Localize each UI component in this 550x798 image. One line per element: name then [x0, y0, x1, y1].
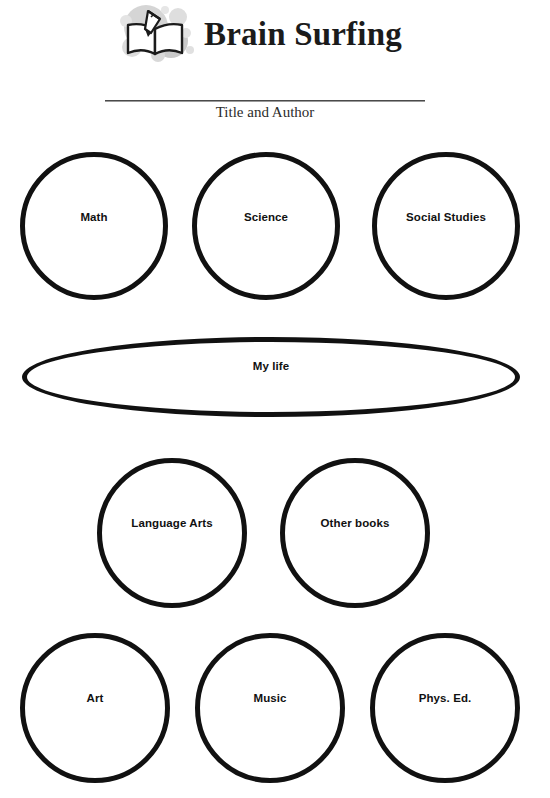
title-and-author-label: Title and Author: [105, 104, 425, 121]
bubble-language-arts[interactable]: Language Arts: [97, 458, 247, 608]
bubble-label: Phys. Ed.: [375, 692, 515, 704]
bubble-my-life[interactable]: My life: [22, 337, 520, 417]
bubble-label: Math: [25, 211, 163, 223]
page-header: Brain Surfing: [0, 0, 550, 70]
worksheet-page: Brain Surfing Title and Author Math Scie…: [0, 0, 550, 798]
bubble-music[interactable]: Music: [195, 633, 345, 783]
bubble-label: My life: [27, 360, 515, 372]
bubble-label: Science: [197, 211, 335, 223]
bubble-other-books[interactable]: Other books: [280, 458, 430, 608]
bubble-math[interactable]: Math: [20, 152, 168, 300]
open-book-with-pencil-icon: [118, 3, 198, 65]
bubble-science[interactable]: Science: [192, 152, 340, 300]
bubble-label: Social Studies: [377, 211, 515, 223]
bubble-label: Music: [200, 692, 340, 704]
bubble-label: Other books: [285, 517, 425, 529]
bubble-label: Art: [25, 692, 165, 704]
bubble-label: Language Arts: [102, 517, 242, 529]
bubble-art[interactable]: Art: [20, 633, 170, 783]
bubble-social-studies[interactable]: Social Studies: [372, 152, 520, 300]
header-divider: [105, 100, 425, 102]
page-title: Brain Surfing: [204, 13, 504, 55]
bubble-phys-ed[interactable]: Phys. Ed.: [370, 633, 520, 783]
